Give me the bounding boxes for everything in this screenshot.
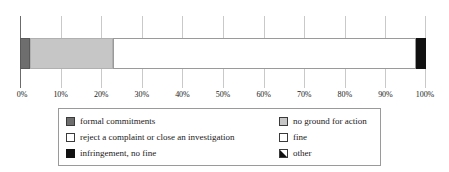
chart-legend: formal commitments no ground for action … bbox=[58, 108, 381, 166]
tick-label: 70% bbox=[297, 89, 311, 101]
tick-label: 80% bbox=[338, 89, 352, 101]
bar-segment-formal-commitments bbox=[20, 38, 30, 69]
legend-item-fine: fine bbox=[279, 129, 373, 145]
tick-label: 10% bbox=[53, 89, 67, 101]
white-swatch-icon bbox=[279, 133, 288, 142]
bar-segment-reject-or-close bbox=[113, 38, 415, 69]
bar-segment-no-ground-for-action bbox=[30, 38, 113, 69]
legend-item-reject-or-close: reject a complaint or close an investiga… bbox=[66, 129, 279, 145]
legend-label: fine bbox=[293, 132, 307, 143]
tick-label: 40% bbox=[175, 89, 189, 101]
legend-label: no ground for action bbox=[293, 116, 367, 127]
legend-label: formal commitments bbox=[80, 116, 155, 127]
stacked-bar-chart: 0% 10% 20% 30% 40% 50% 60% 70% 80% 90% 1… bbox=[0, 0, 449, 172]
dark-gray-swatch-icon bbox=[66, 117, 75, 126]
legend-label: infringement, no fine bbox=[80, 148, 156, 159]
tick-label: 20% bbox=[94, 89, 108, 101]
diagonal-hatch-swatch-icon bbox=[279, 149, 288, 158]
tick-label: 100% bbox=[416, 89, 434, 101]
legend-item-infringement-no-fine: infringement, no fine bbox=[66, 145, 279, 161]
legend-item-no-ground-for-action: no ground for action bbox=[279, 113, 373, 129]
tick-label: 90% bbox=[378, 89, 392, 101]
bar-segment-infringement-no-fine bbox=[416, 38, 426, 69]
legend-label: other bbox=[293, 148, 312, 159]
legend-item-formal-commitments: formal commitments bbox=[66, 113, 279, 129]
legend-item-other: other bbox=[279, 145, 373, 161]
tick-label: 0% bbox=[17, 89, 27, 101]
light-gray-swatch-icon bbox=[279, 117, 288, 126]
x-axis-tick-labels: 0% 10% 20% 30% 40% 50% 60% 70% 80% 90% 1… bbox=[0, 89, 449, 103]
white-swatch-icon bbox=[66, 133, 75, 142]
bar-row bbox=[20, 38, 426, 69]
legend-label: reject a complaint or close an investiga… bbox=[80, 132, 234, 143]
tick-label: 50% bbox=[216, 89, 230, 101]
tick-label: 30% bbox=[135, 89, 149, 101]
black-swatch-icon bbox=[66, 149, 75, 158]
tick-label: 60% bbox=[256, 89, 270, 101]
